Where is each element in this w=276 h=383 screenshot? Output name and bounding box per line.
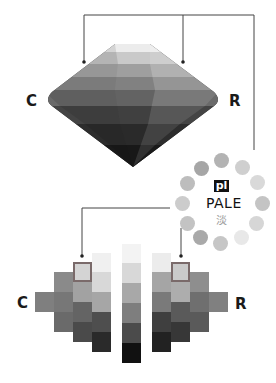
- tone-dot: [234, 230, 249, 245]
- strip-cell: [122, 244, 141, 263]
- top-c-label: C: [26, 94, 37, 109]
- tone-name: PALE: [206, 195, 242, 211]
- tone-dot: [255, 196, 270, 211]
- grid-cell: [92, 312, 111, 332]
- grid-cell: [35, 292, 54, 312]
- grid-cell: [152, 312, 171, 332]
- grid-cell: [190, 272, 209, 292]
- grid-cell: [171, 302, 190, 322]
- grid-cell: [92, 272, 111, 292]
- tone-dot: [180, 176, 195, 191]
- tone-dot: [194, 161, 209, 176]
- tone-dot: [193, 230, 208, 245]
- grid-cell: [73, 322, 92, 342]
- tone-kanji: 淡: [216, 211, 227, 227]
- grid-cell: [171, 282, 190, 302]
- grid-cell: [92, 332, 111, 352]
- top-r-label: R: [229, 94, 241, 109]
- grid-cell: [73, 282, 92, 302]
- tone-dot: [175, 196, 190, 211]
- strip-cell: [122, 343, 141, 363]
- grid-cell: [92, 292, 111, 312]
- strip-cell: [122, 303, 141, 323]
- tone-diamond: [35, 40, 230, 170]
- tone-badge: pl: [214, 180, 229, 192]
- grid-cell: [54, 292, 73, 312]
- grid-cell: [152, 332, 171, 352]
- grid-cell: [73, 302, 92, 322]
- strip-cell: [122, 283, 141, 303]
- highlighted-cell: [171, 262, 190, 282]
- tone-dot: [214, 153, 229, 168]
- grid-cell: [92, 253, 111, 272]
- tone-dot: [235, 160, 250, 175]
- tone-dot: [180, 216, 195, 231]
- strip-cell: [122, 263, 141, 283]
- grid-cell: [209, 292, 228, 312]
- grid-cell: [152, 253, 171, 272]
- tone-dot: [249, 216, 264, 231]
- bottom-r-label: R: [235, 297, 247, 312]
- tone-dot: [213, 236, 228, 251]
- strip-cell: [122, 323, 141, 343]
- grid-cell: [54, 312, 73, 332]
- grid-cell: [171, 322, 190, 342]
- grid-cell: [190, 292, 209, 312]
- tone-dot: [250, 175, 265, 190]
- grid-cell: [190, 312, 209, 332]
- bottom-c-label: C: [17, 296, 28, 311]
- grid-cell: [54, 272, 73, 292]
- grid-cell: [152, 292, 171, 312]
- grid-cell: [152, 272, 171, 292]
- highlighted-cell: [73, 262, 92, 282]
